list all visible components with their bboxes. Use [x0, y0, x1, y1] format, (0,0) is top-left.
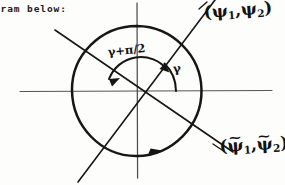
diagram-canvas — [0, 0, 285, 185]
psi-symbol-2: ψ — [240, 0, 257, 19]
gamma-label: γ — [172, 61, 182, 76]
vertical-axis — [137, 3, 138, 178]
scanned-diagram-page: gram below: (ψ1,ψ2) (ψ~1,ψ~2) γ+π/2 γ — [0, 0, 285, 185]
psi-symbol-1: ψ — [211, 0, 228, 21]
psi-tilde-symbol-2-wrap: ψ~ — [256, 133, 273, 154]
typed-text-fragment: gram below: — [0, 3, 67, 14]
psi-tilde-symbol-2: ψ — [256, 133, 273, 154]
psi-tilde-symbol-1: ψ — [227, 135, 244, 156]
psi-pair-close-paren: ) — [264, 0, 273, 18]
psi-tilde-pair-label: (ψ~1,ψ~2) — [219, 132, 285, 157]
psi-tilde-pair-close-paren: ) — [280, 132, 285, 152]
gamma-plus-half-pi-arrowhead-icon — [109, 78, 120, 87]
psi-tilde-symbol-1-wrap: ψ~ — [227, 135, 244, 156]
